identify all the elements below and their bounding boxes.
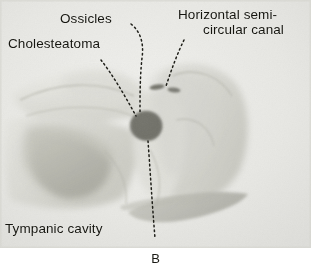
label-hsc-line1: Horizontal semi-	[178, 7, 277, 22]
label-tympanic-cavity: Tympanic cavity	[5, 222, 103, 237]
figure-caption: B	[0, 251, 311, 266]
label-ossicles: Ossicles	[60, 12, 112, 27]
figure-panel: Ossicles Cholesteatoma Horizontal semi-c…	[0, 0, 319, 272]
label-horizontal-semicircular-canal: Horizontal semi-circular canal	[178, 8, 311, 37]
label-cholesteatoma: Cholesteatoma	[8, 37, 100, 52]
label-hsc-line2: circular canal	[174, 23, 311, 38]
specimen-photograph: Ossicles Cholesteatoma Horizontal semi-c…	[0, 0, 311, 248]
